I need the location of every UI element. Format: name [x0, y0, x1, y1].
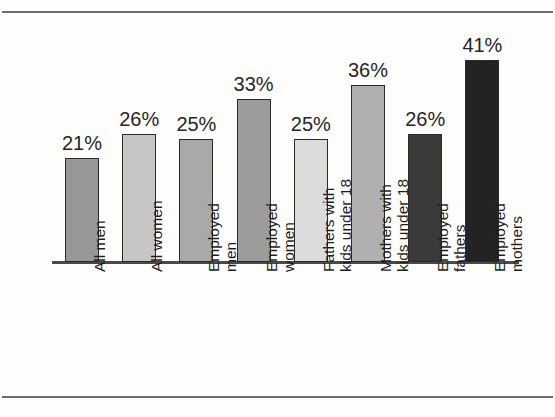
x-tick-label: Employedfathers [434, 203, 468, 272]
x-tick-label: Fathers withkids under 18 [320, 179, 354, 272]
x-tick-label-line-1: All men [91, 220, 108, 272]
x-tick-label-line-1: Employed [205, 203, 222, 272]
bar-value-label: 41% [462, 34, 502, 57]
bar-value-label: 21% [62, 132, 102, 155]
chart-figure: 21%26%25%33%25%36%26%41% All menAll wome… [0, 0, 555, 417]
x-tick-label-line-2: women [280, 203, 297, 272]
bar-value-label: 25% [291, 113, 331, 136]
bar-value-label: 33% [234, 73, 274, 96]
x-tick-label: All men [91, 220, 108, 272]
plot-area: 21%26%25%33%25%36%26%41% All menAll wome… [0, 0, 555, 417]
x-tick-label: Employedmothers [491, 203, 525, 272]
x-tick-label-line-2: kids under 18 [394, 179, 411, 272]
x-tick-label: Employedmen [205, 203, 239, 272]
x-tick-label-line-1: Mothers with [377, 179, 394, 272]
bar-value-label: 26% [119, 108, 159, 131]
x-tick-label-line-2: fathers [451, 203, 468, 272]
bar-value-label: 25% [176, 113, 216, 136]
x-tick-label: All women [148, 201, 165, 273]
x-tick-label: Employedwomen [263, 203, 297, 272]
x-tick-label: Mothers withkids under 18 [377, 179, 411, 272]
bar-value-label: 36% [348, 59, 388, 82]
x-tick-label-line-2: mothers [508, 203, 525, 272]
x-tick-label-line-1: Employed [434, 203, 451, 272]
x-tick-label-line-1: All women [148, 201, 165, 273]
x-tick-label-line-2: kids under 18 [337, 179, 354, 272]
x-tick-label-line-1: Fathers with [320, 179, 337, 272]
x-tick-label-line-1: Employed [263, 203, 280, 272]
x-tick-label-line-2: men [222, 203, 239, 272]
x-tick-label-line-1: Employed [491, 203, 508, 272]
bar-value-label: 26% [405, 108, 445, 131]
